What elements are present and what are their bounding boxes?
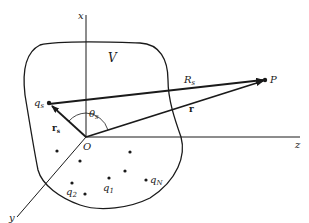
charge-q-1 [107, 176, 110, 179]
q-s-label: qs [34, 97, 44, 110]
charge-dot [55, 149, 58, 152]
region-label-V: V [108, 51, 118, 65]
charge-dot [83, 192, 86, 195]
q-1-label: q1 [103, 182, 114, 195]
q-N-label: qN [150, 174, 163, 187]
origin-label: O [83, 141, 91, 152]
R-s-label: Rs [183, 74, 196, 87]
charge-distribution-diagram: x z y O V P Rs r rs θs qs q1 q2 qN [0, 0, 309, 223]
y-axis [17, 137, 86, 217]
point-P-label: P [269, 74, 277, 85]
q-2-label: q2 [66, 186, 77, 199]
charge-dot [78, 159, 81, 162]
point-q-s [47, 101, 51, 105]
r-s-label: rs [52, 123, 61, 134]
charge-q-2 [70, 181, 73, 184]
theta-s-label: θs [89, 108, 99, 121]
y-axis-label: y [8, 212, 15, 223]
x-axis-label: x [78, 10, 84, 21]
charge-dot [123, 169, 126, 172]
point-P [263, 78, 267, 82]
charge-dot [128, 150, 131, 153]
r-label: r [189, 104, 194, 114]
z-axis-label: z [294, 139, 301, 150]
charge-q-N [144, 178, 147, 181]
